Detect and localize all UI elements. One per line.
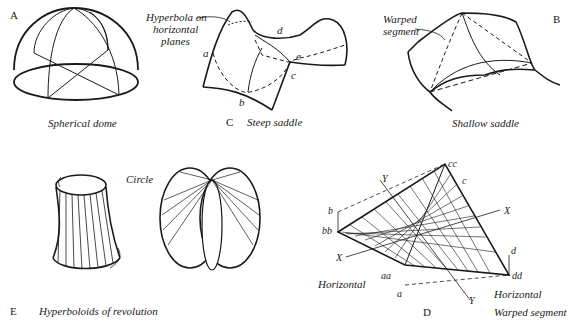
axis-y-top: Y [382, 173, 388, 185]
spherical-dome-drawing [14, 8, 138, 100]
axis-x-left: X [336, 252, 342, 264]
shallow-saddle-drawing [408, 13, 560, 111]
point-b: b [239, 96, 245, 108]
axis-y-bottom: Y [469, 295, 475, 307]
panel-letter-e: E [10, 305, 17, 317]
panel-letter-b: B [553, 13, 560, 25]
caption-hyperboloids: Hyperboloids of revolution [39, 305, 158, 317]
caption-steep-saddle: Steep saddle [247, 116, 302, 128]
point-d-d: d [511, 245, 516, 257]
point-c: c [291, 69, 296, 81]
point-a-d: a [397, 288, 402, 300]
panel-letter-d: D [423, 306, 431, 318]
annotation-hyperbola-line1: Hyperbola on [146, 11, 207, 23]
point-c-d: c [462, 175, 466, 187]
annotation-hyperbola-line2: horizontal [153, 23, 198, 35]
annotation-warped-line1: Warped [383, 13, 417, 25]
hyperboloid-drawings [53, 168, 260, 270]
label-horizontal-right: Horizontal [494, 288, 542, 300]
point-a: a [203, 47, 209, 59]
point-aa: aa [381, 270, 391, 282]
panel-letter-a: A [10, 9, 18, 21]
point-d: d [277, 24, 283, 36]
point-dd: dd [512, 270, 522, 282]
annotation-warped-line2: segment [383, 25, 419, 37]
point-e: e [296, 50, 301, 62]
point-b-d: b [328, 205, 333, 217]
steep-saddle-drawing [197, 10, 347, 110]
caption-warped-segment: Warped segment [494, 306, 567, 318]
figure-drawings [0, 0, 571, 323]
point-bb: bb [322, 225, 332, 237]
annotation-circle: Circle [126, 173, 153, 185]
annotation-hyperbola-line3: planes [161, 35, 190, 47]
caption-shallow-saddle: Shallow saddle [452, 117, 519, 129]
point-cc: cc [448, 158, 457, 170]
label-horizontal-left: Horizontal [318, 278, 366, 290]
axis-x-right: X [504, 205, 510, 217]
caption-spherical-dome: Spherical dome [48, 117, 117, 129]
panel-letter-c: C [226, 116, 233, 128]
